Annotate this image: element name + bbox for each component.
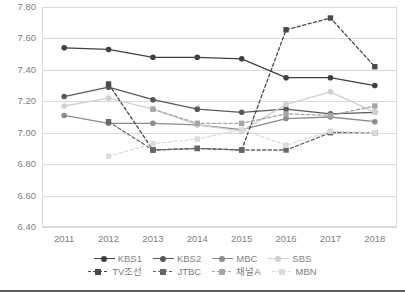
data-point-marker: [61, 45, 67, 51]
legend-label: TV조선: [112, 267, 142, 277]
legend-marker: [101, 256, 107, 262]
y-axis: 7.807.607.407.207.006.806.606.40: [0, 0, 40, 292]
data-point-marker: [328, 75, 334, 81]
data-point-marker: [239, 147, 244, 152]
line-chart: 7.807.607.407.207.006.806.606.40 2011201…: [0, 0, 405, 292]
legend-swatch-icon: [268, 254, 289, 263]
data-point-marker: [195, 136, 200, 141]
data-point-marker: [283, 116, 289, 122]
data-point-marker: [372, 83, 378, 89]
y-axis-tick-label: 7.60: [18, 33, 37, 43]
x-axis-tick-label: 2015: [231, 233, 252, 245]
legend-item-SBS[interactable]: SBS: [268, 254, 311, 264]
legend: KBS1KBS2MBCSBS TV조선JTBC채널AMBN: [0, 252, 405, 278]
legend-marker: [95, 269, 101, 275]
data-point-marker: [283, 75, 289, 81]
y-axis-tick-label: 6.80: [18, 159, 37, 169]
y-axis-tick-label: 7.20: [18, 96, 37, 106]
legend-item-TV조선[interactable]: TV조선: [88, 267, 142, 277]
legend-row-secondary: TV조선JTBC채널AMBN: [0, 265, 405, 278]
x-axis-tick-label: 2011: [54, 233, 74, 245]
data-point-marker: [61, 94, 67, 100]
legend-marker: [279, 269, 285, 275]
legend-swatch-icon: [153, 254, 174, 263]
x-axis-tick-label: 2018: [364, 233, 385, 245]
data-point-marker: [150, 106, 155, 111]
x-axis-tick-label: 2013: [142, 233, 163, 245]
legend-row-primary: KBS1KBS2MBCSBS: [0, 252, 405, 265]
data-point-marker: [61, 103, 67, 109]
data-point-marker: [239, 127, 244, 132]
legend-label: MBN: [296, 267, 317, 277]
legend-label: KBS1: [118, 254, 142, 264]
legend-swatch-icon: [272, 267, 293, 276]
data-point-marker: [195, 54, 201, 60]
data-point-marker: [106, 154, 111, 159]
data-point-marker: [283, 111, 288, 116]
legend-swatch-icon: [212, 267, 233, 276]
data-point-marker: [239, 109, 245, 115]
data-point-marker: [283, 147, 288, 152]
legend-marker: [219, 256, 225, 262]
data-point-marker: [61, 113, 67, 119]
y-axis-tick-label: 6.60: [18, 191, 37, 201]
data-point-marker: [150, 97, 156, 103]
legend-marker: [160, 256, 166, 262]
legend-swatch-icon: [94, 254, 115, 263]
data-point-marker: [106, 119, 111, 124]
legend-label: SBS: [292, 254, 311, 264]
data-point-marker: [372, 103, 377, 108]
legend-item-채널A[interactable]: 채널A: [212, 267, 260, 277]
data-point-marker: [239, 56, 245, 62]
data-point-marker: [372, 64, 377, 69]
legend-marker: [219, 269, 225, 275]
x-axis-tick-label: 2016: [275, 233, 296, 245]
y-axis-tick-label: 7.40: [18, 65, 37, 75]
data-point-marker: [150, 141, 155, 146]
data-point-marker: [372, 119, 378, 125]
data-point-marker: [150, 147, 155, 152]
x-axis-tick-label: 2014: [187, 233, 208, 245]
legend-label: 채널A: [236, 267, 260, 277]
y-axis-tick-label: 7.80: [18, 2, 37, 12]
legend-label: KBS2: [177, 254, 201, 264]
legend-swatch-icon: [88, 267, 109, 276]
data-point-marker: [195, 106, 201, 112]
gridline: [42, 227, 397, 228]
legend-item-KBS1[interactable]: KBS1: [94, 254, 142, 264]
data-point-marker: [372, 109, 378, 115]
legend-item-MBC[interactable]: MBC: [212, 254, 257, 264]
y-axis-tick-label: 7.00: [18, 128, 37, 138]
data-point-marker: [106, 95, 112, 101]
legend-marker: [160, 269, 166, 275]
data-point-marker: [328, 128, 333, 133]
series-line: [64, 48, 375, 86]
series-MBN: [106, 127, 378, 159]
legend-item-KBS2[interactable]: KBS2: [153, 254, 201, 264]
data-point-marker: [328, 15, 333, 20]
data-point-marker: [283, 27, 288, 32]
legend-swatch-icon: [212, 254, 233, 263]
data-point-marker: [283, 143, 288, 148]
y-axis-tick-label: 6.40: [18, 222, 37, 232]
series-layer: [42, 7, 397, 227]
legend-item-MBN[interactable]: MBN: [272, 267, 317, 277]
data-point-marker: [106, 47, 112, 53]
data-point-marker: [328, 89, 334, 95]
legend-marker: [275, 256, 281, 262]
x-axis: 20112012201320142015201620172018: [42, 233, 397, 249]
data-point-marker: [239, 121, 244, 126]
data-point-marker: [150, 54, 156, 60]
legend-swatch-icon: [153, 267, 174, 276]
data-point-marker: [283, 102, 289, 108]
legend-label: JTBC: [177, 267, 201, 277]
data-point-marker: [106, 81, 111, 86]
data-point-marker: [372, 130, 377, 135]
data-point-marker: [150, 120, 156, 126]
plot-area: [42, 7, 397, 227]
legend-label: MBC: [236, 254, 257, 264]
data-point-marker: [195, 121, 200, 126]
legend-item-JTBC[interactable]: JTBC: [153, 267, 201, 277]
x-axis-tick-label: 2017: [320, 233, 341, 245]
data-point-marker: [195, 146, 200, 151]
